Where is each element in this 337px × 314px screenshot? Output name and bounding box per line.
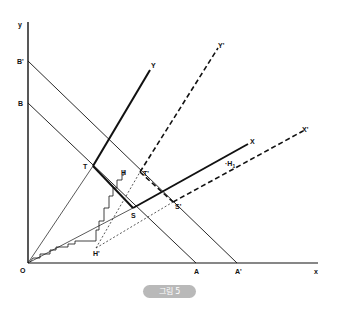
- label-X: X: [250, 138, 255, 145]
- ray-X-prime: [173, 131, 303, 202]
- label-H: H: [121, 169, 126, 176]
- ray-X: [133, 144, 248, 208]
- label-H1: ·H1: [225, 160, 235, 169]
- figure-caption-badge: 그림 5: [143, 285, 196, 298]
- label-T-prime: T': [143, 170, 149, 177]
- label-H1-sub: 1: [232, 163, 235, 169]
- x-axis-label: x: [314, 268, 318, 275]
- label-B-prime: B': [17, 58, 24, 65]
- label-T: T: [83, 163, 88, 170]
- dotted-Hp-Tp: [96, 172, 140, 248]
- label-Y-prime: Y': [218, 42, 225, 49]
- segment-TS: [93, 166, 133, 208]
- indifference-diagram: y x O B' B A A' Y Y' X X' T T' S S' H H'…: [0, 0, 337, 314]
- dotted-Hp-Sp: [96, 202, 173, 248]
- y-axis-label: y: [18, 21, 22, 29]
- label-S-prime: S': [175, 203, 182, 210]
- label-B: B: [18, 100, 23, 107]
- label-A: A: [194, 268, 199, 275]
- ray-OT: [28, 166, 93, 263]
- label-X-prime: X': [302, 126, 309, 133]
- label-A-prime: A': [235, 268, 242, 275]
- budget-line-BpAp: [28, 61, 237, 263]
- label-S: S: [131, 212, 136, 219]
- label-Y: Y: [151, 62, 156, 69]
- budget-line-BA: [28, 103, 196, 263]
- label-H-prime: H': [93, 250, 100, 257]
- origin-label: O: [20, 267, 26, 274]
